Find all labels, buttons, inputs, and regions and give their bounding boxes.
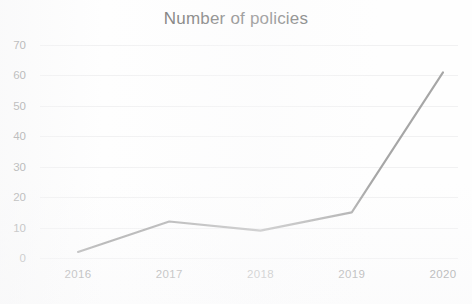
line-series-number-of-policies	[78, 72, 443, 252]
series-layer	[0, 0, 472, 304]
chart-container: Number of policies 010203040506070 20162…	[0, 0, 472, 304]
